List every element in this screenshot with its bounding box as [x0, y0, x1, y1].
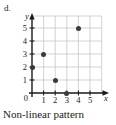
- data-point: [30, 65, 35, 70]
- x-tick-label-4: 4: [73, 96, 83, 105]
- origin-label: 0: [18, 94, 28, 103]
- x-tick-label-3: 3: [62, 96, 72, 105]
- data-point: [41, 52, 46, 57]
- y-tick-label-3: 3: [17, 50, 27, 59]
- y-tick-label-4: 4: [17, 37, 27, 46]
- x-tick-label-2: 2: [50, 96, 60, 105]
- y-tick-label-1: 1: [17, 76, 27, 85]
- x-axis-label: x: [104, 94, 108, 103]
- figure-panel: d.: [0, 0, 116, 125]
- data-point: [76, 26, 81, 31]
- y-tick-label-5: 5: [17, 24, 27, 33]
- x-tick-label-1: 1: [39, 96, 49, 105]
- scatter-plot: 5 4 3 2 1 0 1 2 3 4 5 y x: [0, 0, 116, 125]
- y-axis-label: y: [25, 12, 29, 21]
- data-point: [64, 91, 69, 96]
- figure-caption: Non-linear pattern: [3, 108, 84, 120]
- data-point: [53, 78, 58, 83]
- x-tick-label-5: 5: [85, 96, 95, 105]
- y-tick-label-2: 2: [17, 63, 27, 72]
